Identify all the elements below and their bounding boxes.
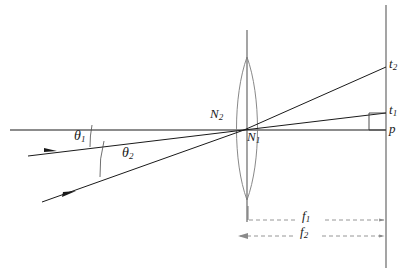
- f2-left-arrow-icon: [238, 233, 248, 239]
- label-theta2: θ2: [122, 146, 133, 161]
- label-nodal-point-n1: N1: [247, 130, 260, 145]
- label-image-height-t1: t1: [389, 103, 397, 118]
- refracted-ray-t1: [244, 113, 386, 130]
- ray-diagram-svg: [0, 0, 412, 273]
- label-theta1: θ1: [74, 129, 85, 144]
- label-focal-length-f2: f2: [300, 225, 308, 240]
- incident-ray-1-arrow-icon: [44, 148, 57, 152]
- incident-ray-2: [42, 130, 244, 202]
- figure-canvas: θ1 θ2 N2 N1 t2 t1 p f1 f2: [0, 0, 412, 273]
- right-angle-marker-icon: [369, 113, 386, 130]
- theta1-arc: [90, 125, 92, 147]
- label-image-height-t2: t2: [389, 57, 397, 72]
- label-focal-length-f1: f1: [302, 209, 310, 224]
- theta2-arc: [100, 141, 104, 177]
- label-nodal-point-n2: N2: [210, 107, 223, 122]
- label-point-p: p: [389, 122, 396, 137]
- incident-ray-1: [28, 130, 244, 156]
- incident-ray-2-arrow-icon: [62, 191, 76, 197]
- refracted-ray-t2: [244, 67, 386, 130]
